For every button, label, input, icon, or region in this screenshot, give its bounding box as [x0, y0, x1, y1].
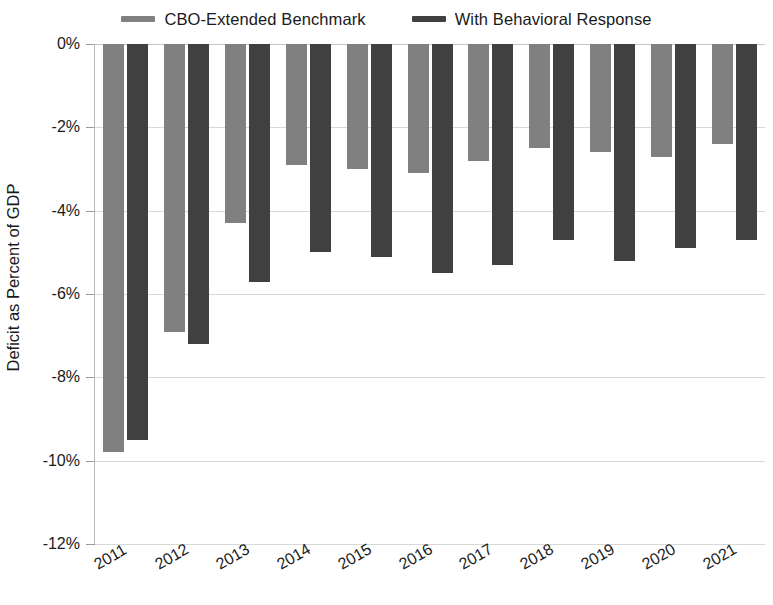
- bar-2012-series-1[interactable]: [188, 44, 209, 344]
- x-axis-tick-labels: 2011201220132014201520162017201820192020…: [95, 546, 765, 605]
- bar-2013-series-0[interactable]: [225, 44, 246, 223]
- bar-2011-series-0[interactable]: [103, 44, 124, 452]
- bar-2017-series-0[interactable]: [468, 44, 489, 161]
- bar-2016-series-0[interactable]: [408, 44, 429, 173]
- bar-2011-series-1[interactable]: [127, 44, 148, 440]
- bar-2018-series-0[interactable]: [529, 44, 550, 148]
- bar-group-2017: [468, 44, 513, 544]
- bar-group-2014: [286, 44, 331, 544]
- legend-label-0: CBO-Extended Benchmark: [164, 10, 365, 29]
- bar-group-2013: [225, 44, 270, 544]
- bar-group-2021: [712, 44, 757, 544]
- legend-entry-1[interactable]: With Behavioral Response: [412, 10, 652, 29]
- legend-swatch-dark-icon: [412, 16, 446, 22]
- bar-group-2016: [408, 44, 453, 544]
- bar-2020-series-0[interactable]: [651, 44, 672, 157]
- x-tick-label-2020: 2020: [639, 540, 679, 573]
- bar-2015-series-0[interactable]: [347, 44, 368, 169]
- legend-entry-0[interactable]: CBO-Extended Benchmark: [121, 10, 365, 29]
- x-tick-label-2014: 2014: [274, 540, 314, 573]
- bar-2020-series-1[interactable]: [675, 44, 696, 248]
- y-tick-label: -10%: [6, 452, 80, 470]
- bar-group-2012: [164, 44, 209, 544]
- bar-2019-series-1[interactable]: [614, 44, 635, 261]
- bar-group-2011: [103, 44, 148, 544]
- bar-2012-series-0[interactable]: [164, 44, 185, 332]
- bar-2016-series-1[interactable]: [432, 44, 453, 273]
- bar-group-2019: [590, 44, 635, 544]
- y-axis-title: Deficit as Percent of GDP: [4, 128, 23, 428]
- bar-2021-series-0[interactable]: [712, 44, 733, 144]
- x-tick-label-2012: 2012: [152, 540, 192, 573]
- bar-2019-series-0[interactable]: [590, 44, 611, 152]
- bar-group-2020: [651, 44, 696, 544]
- chart-legend: CBO-Extended BenchmarkWith Behavioral Re…: [0, 6, 773, 32]
- y-tick-mark: [86, 544, 95, 545]
- bar-2015-series-1[interactable]: [371, 44, 392, 257]
- y-tick-label: -12%: [6, 535, 80, 553]
- bar-group-2018: [529, 44, 574, 544]
- x-tick-label-2021: 2021: [700, 540, 740, 573]
- x-tick-label-2011: 2011: [91, 541, 130, 574]
- bar-chart: CBO-Extended BenchmarkWith Behavioral Re…: [0, 0, 773, 605]
- bar-series-container: [95, 44, 765, 544]
- bar-2014-series-0[interactable]: [286, 44, 307, 165]
- bar-group-2015: [347, 44, 392, 544]
- bar-2018-series-1[interactable]: [553, 44, 574, 240]
- bar-2013-series-1[interactable]: [249, 44, 270, 282]
- bar-2014-series-1[interactable]: [310, 44, 331, 252]
- bar-2021-series-1[interactable]: [736, 44, 757, 240]
- bar-2017-series-1[interactable]: [492, 44, 513, 265]
- x-tick-label-2015: 2015: [335, 540, 375, 573]
- x-tick-label-2013: 2013: [213, 540, 253, 573]
- x-tick-label-2016: 2016: [396, 540, 436, 573]
- x-tick-label-2017: 2017: [456, 540, 496, 573]
- x-tick-label-2019: 2019: [578, 540, 618, 573]
- legend-label-1: With Behavioral Response: [455, 10, 652, 29]
- y-tick-label: 0%: [6, 35, 80, 53]
- legend-swatch-light-icon: [121, 16, 155, 22]
- x-tick-label-2018: 2018: [517, 540, 557, 573]
